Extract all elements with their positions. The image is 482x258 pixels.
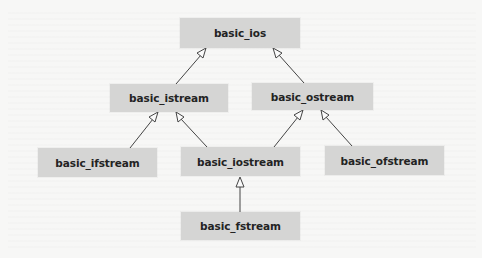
node-basic-istream: basic_istream <box>110 84 228 112</box>
node-basic-ifstream: basic_ifstream <box>38 148 157 177</box>
node-label: basic_istream <box>129 92 209 104</box>
node-basic-iostream: basic_iostream <box>181 147 300 176</box>
node-label: basic_ifstream <box>55 157 139 169</box>
node-basic-ofstream: basic_ofstream <box>325 146 444 175</box>
node-label: basic_ostream <box>271 91 354 103</box>
node-basic-ostream: basic_ostream <box>252 83 373 110</box>
node-label: basic_ofstream <box>341 155 429 167</box>
node-label: basic_iostream <box>197 156 284 168</box>
node-label: basic_ios <box>214 27 266 39</box>
node-basic-fstream: basic_fstream <box>181 212 300 240</box>
node-basic-ios: basic_ios <box>180 18 300 48</box>
node-label: basic_fstream <box>200 220 281 232</box>
